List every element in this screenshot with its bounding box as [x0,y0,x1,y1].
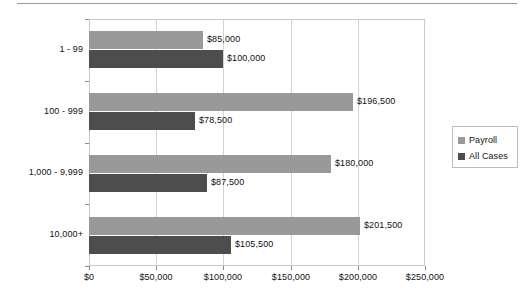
x-axis-tick-0 [89,266,90,270]
y-axis-tick-0 [85,19,89,20]
legend-item-all-cases[interactable]: All Cases [458,148,517,164]
bar-all-cases-3[interactable] [89,236,231,254]
legend-label-all-cases: All Cases [469,151,508,161]
legend-label-payroll: Payroll [469,135,497,145]
bar-all-cases-0[interactable] [89,50,223,68]
category-label-0: 1 - 99 [59,44,83,54]
bar-value-label-payroll-1: $196,500 [357,96,395,106]
x-axis-tick-label-4: $200,000 [339,272,377,282]
category-label-1: 100 - 999 [44,106,83,116]
bar-value-label-all-cases-0: $100,000 [227,53,265,63]
y-axis-tick-3 [85,204,89,205]
x-axis-tick-label-5: $250,000 [406,272,444,282]
x-axis-tick-4 [358,266,359,270]
category-label-3: 10,000+ [50,229,83,239]
bar-value-label-all-cases-1: $78,500 [199,115,232,125]
bar-value-label-payroll-2: $180,000 [335,158,373,168]
x-axis-tick-label-1: $50,000 [139,272,172,282]
bar-payroll-3[interactable] [89,217,360,235]
bar-payroll-0[interactable] [89,31,203,49]
category-label-2: 1,000 - 9,999 [29,167,83,177]
bar-value-label-all-cases-2: $87,500 [211,177,244,187]
y-axis-tick-2 [85,143,89,144]
x-axis-tick-label-2: $100,000 [204,272,242,282]
legend-swatch-all-cases-icon [458,153,465,160]
bar-value-label-payroll-3: $201,500 [364,220,402,230]
x-axis-tick-3 [291,266,292,270]
top-divider-rule [17,3,517,4]
bar-all-cases-2[interactable] [89,174,207,192]
legend-swatch-payroll-icon [458,137,465,144]
x-axis-tick-label-3: $150,000 [272,272,310,282]
legend-item-payroll[interactable]: Payroll [458,132,517,148]
x-axis-tick-2 [223,266,224,270]
bar-value-label-all-cases-3: $105,500 [235,239,273,249]
x-axis-tick-5 [425,266,426,270]
x-axis-tick-1 [156,266,157,270]
bar-payroll-2[interactable] [89,155,331,173]
x-axis-tick-label-0: $0 [84,272,94,282]
y-axis-tick-1 [85,81,89,82]
bar-payroll-1[interactable] [89,93,353,111]
bar-value-label-payroll-0: $85,000 [207,34,240,44]
chart-legend: Payroll All Cases [452,126,518,168]
bar-all-cases-1[interactable] [89,112,195,130]
